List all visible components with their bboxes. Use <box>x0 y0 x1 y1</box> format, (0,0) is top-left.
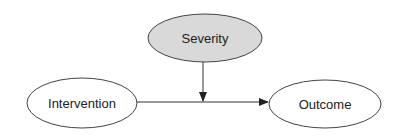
severity-label: Severity <box>182 31 229 46</box>
diagram-canvas <box>0 0 417 139</box>
intervention-label: Intervention <box>48 96 116 111</box>
outcome-label: Outcome <box>299 97 352 112</box>
